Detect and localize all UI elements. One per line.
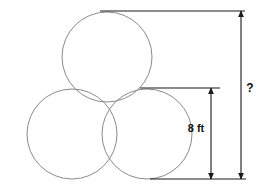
figure-canvas: 8 ft ? [0,0,258,186]
geometry-figure: 8 ft ? [0,0,258,186]
dimension-label-unknown: ? [246,81,253,95]
dimension-label-8ft: 8 ft [188,122,205,134]
